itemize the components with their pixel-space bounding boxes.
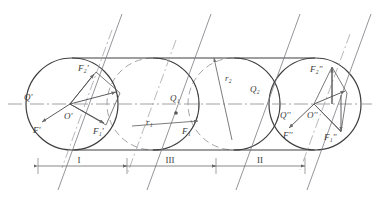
label-r2: r₂	[225, 73, 232, 83]
construction-line-mid	[128, 40, 176, 172]
hatch-line-1	[58, 14, 122, 190]
label-O-prime: O'	[64, 111, 73, 121]
label-O-dprime: O''	[307, 110, 318, 120]
force-diagram-left	[42, 72, 120, 125]
label-F1: F₁	[181, 126, 191, 136]
label-F1-prime: F₁'	[92, 126, 105, 136]
label-Q-prime: Q'	[24, 92, 33, 102]
hatch-line-3	[236, 14, 300, 190]
label-r1: r₁	[146, 117, 153, 127]
dimension-label-III: III	[166, 155, 175, 165]
dimension-label-I: I	[78, 155, 81, 165]
vector-r2	[214, 58, 232, 140]
label-Q2: Q₂	[250, 84, 260, 94]
vector-F1-prime	[70, 104, 104, 123]
label-F1-dprime: F₁''	[323, 132, 338, 142]
label-F2-dprime: F₂''	[309, 64, 324, 74]
label-F2-prime: F₂'	[77, 63, 90, 73]
label-Q1: Q₁	[170, 93, 180, 103]
label-Q-dprime: Q''	[280, 110, 291, 120]
diagram-canvas: Q' O' F₂' F' F₁' Q₁ r₁ F₁ r₂ Q₂ Q'' O'' …	[0, 0, 380, 199]
engineering-diagram-svg: Q' O' F₂' F' F₁' Q₁ r₁ F₁ r₂ Q₂ Q'' O'' …	[0, 0, 380, 199]
point-Q1	[174, 111, 178, 115]
label-F-dprime: F''	[282, 130, 293, 140]
label-F-prime: F'	[32, 125, 41, 135]
dimension-label-II: II	[257, 155, 263, 165]
force-diagram-right	[289, 67, 347, 132]
